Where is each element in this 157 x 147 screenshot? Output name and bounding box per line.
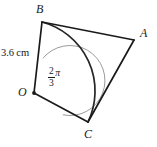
vertex-label-a: A [140, 27, 147, 39]
vertex-label-c: C [84, 128, 92, 140]
segment-ba [42, 22, 134, 40]
segment-oc [34, 93, 88, 122]
pi-symbol: π [55, 69, 60, 79]
radius-length-label: 3.6 cm [1, 48, 29, 59]
angle-numerator: 2 [48, 67, 55, 78]
segment-ob [34, 22, 42, 93]
angle-fraction: 2 3 [48, 67, 55, 88]
vertex-dot-o [32, 91, 36, 95]
figure-canvas [0, 0, 157, 147]
angle-denominator: 3 [48, 78, 55, 88]
geometry-figure: B A O C 3.6 cm 2 3 π [0, 0, 157, 147]
vertex-label-b: B [36, 3, 43, 15]
angle-measure-label: 2 3 π [48, 67, 60, 88]
vertex-label-o: O [18, 86, 27, 98]
